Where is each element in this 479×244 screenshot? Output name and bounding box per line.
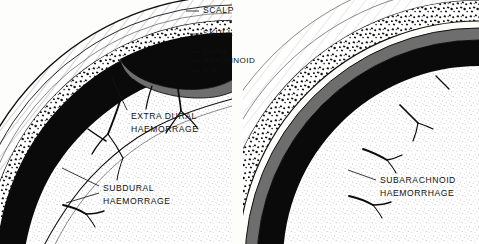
subdural-label-line2: HAEMORRAGE (103, 196, 171, 206)
arachnoid-label: ARACHNOID (203, 56, 255, 65)
figure-root: SCALP SKULL DURA ARACHNOID PIA EXTRA DUR… (0, 0, 479, 244)
extradural-label-line2: HAEMORRAGE (131, 124, 199, 134)
extradural-label-line1: EXTRA DURAL (131, 111, 197, 121)
subdural-label-line1: SUBDURAL (103, 183, 154, 193)
dura-label: DURA (203, 47, 228, 56)
skull-label: SKULL (203, 28, 233, 38)
subarachnoid-label-line1: SUBARACHNOID (380, 175, 456, 185)
anatomy-illustration: SCALP SKULL DURA ARACHNOID PIA EXTRA DUR… (0, 0, 479, 244)
pia-label: PIA (203, 66, 217, 75)
subarachnoid-label-line2: HAEMORRHAGE (380, 188, 454, 198)
scalp-label: SCALP (203, 5, 234, 15)
